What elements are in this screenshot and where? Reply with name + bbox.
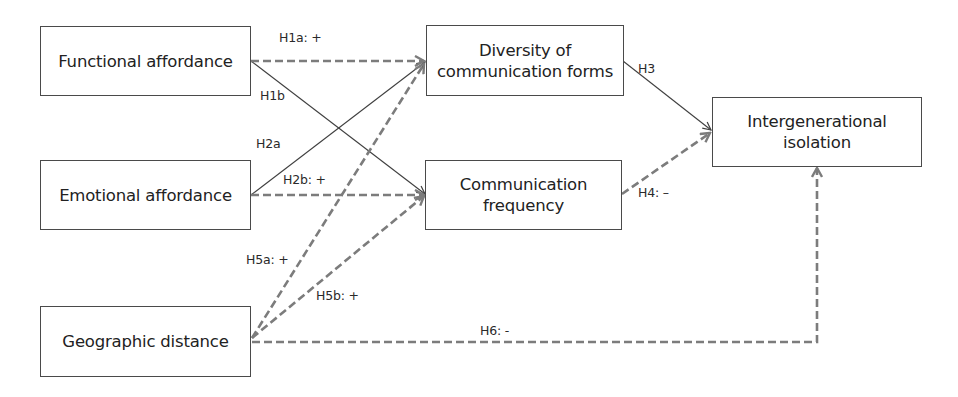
node-label-line1: Intergenerational (747, 111, 886, 132)
node-label: Geographic distance (62, 331, 228, 352)
node-label: Functional affordance (58, 51, 233, 72)
edge-label-h2b: H2b: + (283, 172, 326, 187)
node-label-line1: Diversity of (479, 40, 571, 61)
edge-label-h5a: H5a: + (246, 252, 288, 267)
node-label-line2: communication forms (437, 61, 613, 82)
edge-label-h1b: H1b (260, 88, 285, 103)
edge-label-h3: H3 (638, 61, 655, 76)
node-emotional-affordance: Emotional affordance (40, 160, 251, 230)
edge-label-h2a: H2a (256, 136, 280, 151)
edge-label-h1a: H1a: + (279, 30, 321, 45)
edge-h3 (623, 61, 711, 130)
node-intergenerational-isolation: Intergenerational isolation (712, 97, 922, 167)
node-communication-frequency: Communication frequency (425, 160, 622, 230)
edge-h5b (252, 196, 424, 338)
node-label-line1: Communication (460, 174, 587, 195)
node-label: Emotional affordance (59, 185, 232, 206)
edge-label-h4: H4: – (638, 185, 669, 200)
node-label-line2: frequency (483, 195, 564, 216)
node-label-line2: isolation (783, 132, 851, 153)
node-functional-affordance: Functional affordance (40, 26, 251, 96)
node-diversity-of-communication-forms: Diversity of communication forms (426, 25, 624, 96)
edge-label-h5b: H5b: + (316, 288, 359, 303)
edge-h1b (251, 61, 425, 194)
edge-h2a (251, 62, 425, 195)
edge-label-h6: H6: - (480, 323, 509, 338)
node-geographic-distance: Geographic distance (40, 306, 251, 377)
